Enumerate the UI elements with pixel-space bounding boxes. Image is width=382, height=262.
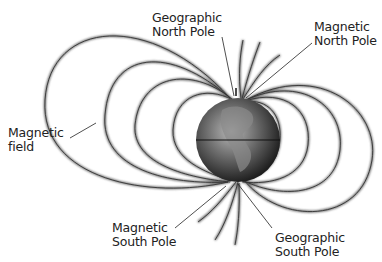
label-magnetic-field: Magnetic field: [8, 126, 64, 154]
magnetic-field-diagram: Geographic North Pole Magnetic North Pol…: [0, 0, 382, 262]
label-geographic-north-pole: Geographic North Pole: [152, 11, 222, 39]
label-geographic-south-pole: Geographic South Pole: [275, 231, 345, 259]
label-line: North Pole: [152, 25, 222, 39]
label-magnetic-south-pole: Magnetic South Pole: [112, 221, 176, 249]
label-magnetic-north-pole: Magnetic North Pole: [314, 20, 377, 48]
label-line: field: [8, 140, 64, 154]
label-line: Magnetic: [112, 221, 176, 235]
label-line: Magnetic: [8, 126, 64, 140]
label-line: North Pole: [314, 34, 377, 48]
label-line: South Pole: [275, 245, 345, 259]
earth-globe: [196, 98, 280, 182]
label-line: South Pole: [112, 235, 176, 249]
label-line: Magnetic: [314, 20, 377, 34]
label-line: Geographic: [152, 11, 222, 25]
label-line: Geographic: [275, 231, 345, 245]
